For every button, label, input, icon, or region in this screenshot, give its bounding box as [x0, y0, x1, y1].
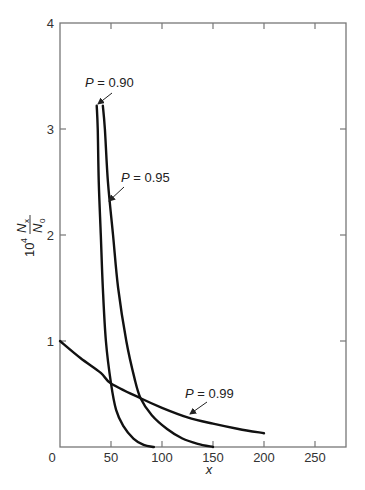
- y-tick-label: 4: [47, 16, 54, 31]
- x-tick-label: 50: [104, 450, 118, 465]
- y-tick-label: 2: [47, 228, 54, 243]
- x-axis-label: x: [205, 462, 213, 477]
- y-label-exponent: 4: [19, 238, 29, 243]
- y-label-denominator: N: [30, 223, 45, 233]
- annotation-arrow: [190, 402, 207, 414]
- y-label-denominator-sub: 0: [38, 218, 47, 223]
- chart: 0501001502002501234 P = 0.90P = 0.95P = …: [0, 0, 365, 490]
- annotation-arrow: [98, 93, 112, 104]
- x-tick-label: 250: [304, 450, 326, 465]
- x-tick-label: 200: [253, 450, 275, 465]
- x-tick-label: 100: [151, 450, 173, 465]
- y-tick-label: 3: [47, 122, 54, 137]
- series-annotation: P = 0.90: [85, 75, 134, 90]
- y-label-numerator: N: [14, 223, 29, 233]
- y-label-prefix: 10: [22, 243, 37, 257]
- y-tick-label: 1: [47, 334, 54, 349]
- y-axis-label: 10 4 N x N 0: [14, 215, 47, 257]
- series-annotation: P = 0.95: [121, 170, 170, 185]
- x-tick-label: 0: [48, 450, 55, 465]
- annotation-arrow: [109, 187, 124, 201]
- series-annotation: P = 0.99: [185, 386, 234, 401]
